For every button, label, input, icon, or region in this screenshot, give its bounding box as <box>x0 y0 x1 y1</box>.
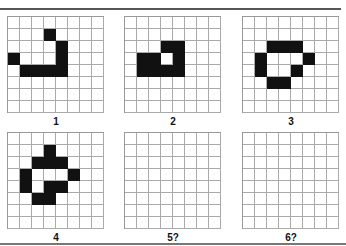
grid-cell <box>80 157 92 169</box>
grid-cell <box>8 101 20 113</box>
grid-cell <box>149 169 161 181</box>
grid-cell <box>291 181 303 193</box>
grid-cell <box>209 17 221 29</box>
grid-cell <box>197 157 209 169</box>
grid-cell <box>255 169 267 181</box>
grid-cell <box>80 101 92 113</box>
grid-cell <box>197 205 209 217</box>
grid-cell <box>279 17 291 29</box>
grid-cell <box>303 193 315 205</box>
grid <box>124 16 221 113</box>
grid-cell <box>137 29 149 41</box>
grid-cell <box>291 169 303 181</box>
grid-cell <box>32 145 44 157</box>
grid-cell <box>8 157 20 169</box>
grid-cell <box>8 41 20 53</box>
grid-cell <box>209 53 221 65</box>
grid-cell <box>291 89 303 101</box>
grid-cell <box>315 169 327 181</box>
grid-cell <box>173 205 185 217</box>
grid-cell <box>279 53 291 65</box>
grid-cell <box>149 77 161 89</box>
grid-cell <box>32 17 44 29</box>
grid-cell <box>8 77 20 89</box>
panel-label: 1 <box>7 116 105 127</box>
grid-cell <box>279 217 291 229</box>
grid-cell <box>327 217 339 229</box>
grid-cell <box>80 145 92 157</box>
grid-cell <box>92 77 104 89</box>
grid-cell <box>149 101 161 113</box>
grid-cell <box>209 65 221 77</box>
grid-cell <box>8 53 20 65</box>
grid-cell <box>149 17 161 29</box>
grid-cell <box>243 193 255 205</box>
grid-cell <box>291 77 303 89</box>
grid-cell <box>315 145 327 157</box>
grid-cell <box>267 89 279 101</box>
grid-cell <box>137 133 149 145</box>
grid-cell <box>68 217 80 229</box>
grid-cell <box>315 133 327 145</box>
grid-cell <box>8 217 20 229</box>
grid-cell <box>137 205 149 217</box>
grid-cell <box>209 77 221 89</box>
grid-cell <box>197 89 209 101</box>
grid-cell <box>315 29 327 41</box>
grid-cell <box>255 157 267 169</box>
grid-cell <box>149 65 161 77</box>
grid-cell <box>173 89 185 101</box>
grid-cell <box>161 217 173 229</box>
panel-5: 5? <box>124 132 222 243</box>
grid-cell <box>161 205 173 217</box>
grid-cell <box>161 65 173 77</box>
grid-cell <box>303 17 315 29</box>
grid-cell <box>32 53 44 65</box>
grid-cell <box>125 193 137 205</box>
grid-cell <box>173 169 185 181</box>
grid-cell <box>209 89 221 101</box>
grid-cell <box>327 53 339 65</box>
grid-cell <box>92 17 104 29</box>
grid-cell <box>255 17 267 29</box>
grid-cell <box>185 205 197 217</box>
grid-cell <box>279 89 291 101</box>
grid-cell <box>8 205 20 217</box>
grid-cell <box>20 29 32 41</box>
grid-cell <box>173 193 185 205</box>
grid-cell <box>161 157 173 169</box>
grid-cell <box>137 217 149 229</box>
grid-cell <box>44 41 56 53</box>
grid-cell <box>137 17 149 29</box>
grid-cell <box>315 41 327 53</box>
grid-cell <box>185 169 197 181</box>
grid-cell <box>149 89 161 101</box>
grid-cell <box>80 217 92 229</box>
grid-cell <box>173 217 185 229</box>
grid-cell <box>44 89 56 101</box>
grid-cell <box>32 29 44 41</box>
grid-cell <box>255 101 267 113</box>
grid-cell <box>255 205 267 217</box>
grid-cell <box>32 205 44 217</box>
grid-cell <box>68 145 80 157</box>
grid-cell <box>197 53 209 65</box>
grid-cell <box>267 29 279 41</box>
grid-cell <box>303 77 315 89</box>
grid-cell <box>315 181 327 193</box>
grid-cell <box>68 29 80 41</box>
grid-cell <box>255 217 267 229</box>
grid-cell <box>267 157 279 169</box>
grid-cell <box>267 53 279 65</box>
grid-cell <box>44 29 56 41</box>
grid-cell <box>92 89 104 101</box>
grid-cell <box>315 157 327 169</box>
grid-cell <box>327 41 339 53</box>
grid-cell <box>315 205 327 217</box>
grid-cell <box>44 169 56 181</box>
grid-cell <box>291 157 303 169</box>
grid-cell <box>255 53 267 65</box>
grid-cell <box>56 29 68 41</box>
grid-cell <box>303 157 315 169</box>
grid-cell <box>303 181 315 193</box>
